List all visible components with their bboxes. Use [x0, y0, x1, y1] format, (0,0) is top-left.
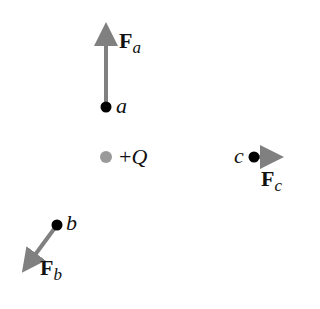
force-label-c: Fc: [261, 168, 282, 190]
force-subscript: b: [53, 265, 62, 284]
force-subscript: a: [132, 38, 141, 57]
force-label-b: Fb: [40, 257, 62, 279]
point-label-b: b: [66, 212, 77, 234]
charge-sign: +: [119, 144, 131, 169]
point-c-dot: [249, 152, 260, 163]
source-charge-label: +Q: [119, 146, 147, 168]
force-subscript: c: [274, 176, 282, 195]
force-symbol: F: [119, 28, 132, 53]
force-symbol: F: [261, 166, 274, 191]
point-label-a: a: [116, 95, 127, 117]
charge-symbol: Q: [131, 144, 147, 169]
source-charge-dot: [100, 151, 112, 163]
force-label-a: Fa: [119, 30, 141, 52]
point-a-dot: [101, 102, 112, 113]
point-b-dot: [52, 220, 63, 231]
point-label-c: c: [234, 145, 244, 167]
force-symbol: F: [40, 255, 53, 280]
